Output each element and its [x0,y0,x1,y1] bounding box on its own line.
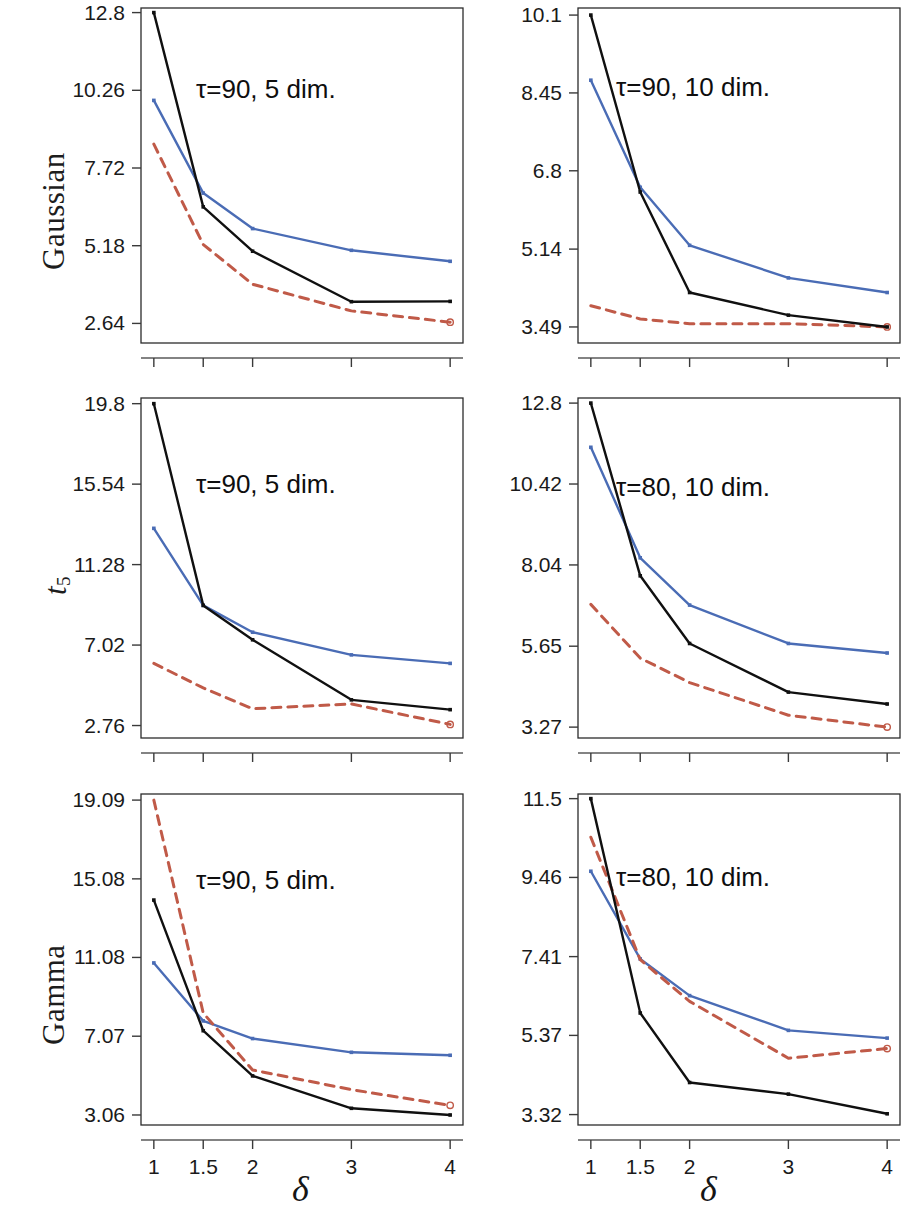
panel-annotation: τ=90, 5 dim. [196,865,336,895]
plot-frame [141,398,463,738]
series-group [152,11,453,326]
series-line-blue-solid [591,871,887,1038]
chart-panel-t5-5dim: 2.767.0211.2815.5419.8τ=90, 5 dim. [49,388,475,796]
plot-frame [578,794,900,1125]
y-tick-label: 10.42 [509,472,562,495]
series-line-blue-solid [154,963,450,1055]
y-tick-label: 7.02 [84,633,125,656]
series-line-red-dashed [154,144,450,322]
series-point-marker [787,642,791,646]
y-tick-label: 5.65 [521,634,562,657]
series-point-marker [638,574,642,578]
series-point-marker [448,662,452,666]
y-tick-label: 9.46 [521,865,562,888]
series-point-marker [688,642,692,646]
series-point-marker [885,325,889,329]
y-tick-label: 6.8 [533,159,562,182]
x-tick-label: 2 [684,1155,696,1178]
series-point-marker [787,1029,791,1033]
x-tick-label: 4 [881,1155,893,1178]
plot-frame [578,8,900,343]
y-tick-label: 19.8 [84,392,125,415]
series-point-marker [350,698,354,702]
series-point-marker [251,630,255,634]
series-point-marker [251,1074,255,1078]
chart-panel-gaussian-5dim: 2.645.187.7210.2612.8τ=90, 5 dim. [49,0,475,401]
y-tick-label: 10.1 [521,3,562,26]
x-tick-label: 3 [783,1155,795,1178]
panel-annotation: τ=90, 5 dim. [196,74,336,104]
series-point-marker [589,401,593,405]
y-tick-label: 10.26 [72,78,125,101]
y-tick-label: 8.45 [521,81,562,104]
y-tick-label: 12.8 [521,391,562,414]
series-point-marker [350,653,354,657]
y-tick-label: 5.37 [521,1023,562,1046]
y-tick-label: 7.07 [84,1024,125,1047]
panel-annotation: τ=80, 10 dim. [616,472,770,502]
xaxis-title-right: δ [700,1168,717,1210]
series-line-black-solid [154,404,450,710]
y-tick-label: 12.8 [84,1,125,24]
series-line-blue-solid [591,80,887,292]
x-tick-label: 1 [148,1155,160,1178]
series-point-marker [201,604,205,608]
xaxis-title-left: δ [292,1168,309,1210]
series-point-marker [350,249,354,253]
series-point-marker [589,446,593,450]
y-tick-label: 11.5 [523,787,562,810]
y-tick-label: 7.72 [84,156,125,179]
x-tick-label: 1.5 [189,1155,218,1178]
series-point-marker [350,300,354,304]
series-point-marker [448,1113,452,1117]
figure-root: Gaussian t5 Gamma 2.645.187.7210.2612.8τ… [0,0,910,1227]
y-tick-label: 11.08 [74,945,125,968]
series-point-marker [448,300,452,304]
series-point-marker [589,78,593,82]
xaxis-title-right-text: δ [700,1169,717,1209]
chart-panel-gamma-10dim: 3.325.377.419.4611.511.5234τ=80, 10 dim. [486,784,910,1183]
xaxis-title-left-text: δ [292,1169,309,1209]
series-point-marker [448,708,452,712]
series-point-marker [787,313,791,317]
series-point-marker [350,1051,354,1055]
series-group [589,797,890,1116]
plot-frame [578,398,900,738]
series-point-marker [152,11,156,15]
chart-panel-t5-10dim: 3.275.658.0410.4212.8τ=80, 10 dim. [486,388,910,796]
series-point-marker [885,651,889,655]
y-tick-label: 7.41 [521,945,562,968]
series-point-marker [251,638,255,642]
series-line-black-solid [591,403,887,704]
series-point-marker [885,702,889,706]
series-point-marker [251,249,255,253]
series-point-marker [152,99,156,103]
series-point-marker [589,869,593,873]
series-line-black-solid [154,13,450,302]
series-group [589,13,890,330]
series-line-red-dashed [591,604,887,727]
series-point-marker [350,1107,354,1111]
series-point-marker [885,1036,889,1040]
series-line-red-dashed [591,306,887,327]
series-point-marker [201,1029,205,1033]
y-tick-label: 2.64 [84,311,125,334]
series-point-marker [201,205,205,209]
series-group [152,800,453,1117]
series-line-black-solid [154,900,450,1115]
x-tick-label: 2 [247,1155,259,1178]
panel-annotation: τ=90, 5 dim. [196,469,336,499]
series-point-marker [251,227,255,231]
series-line-blue-solid [154,528,450,663]
y-tick-label: 3.49 [521,315,562,338]
series-point-marker [688,244,692,248]
series-point-marker [787,690,791,694]
panel-annotation: τ=80, 10 dim. [616,862,770,892]
series-line-red-dashed [154,663,450,724]
series-group [589,401,890,730]
series-point-marker [885,291,889,295]
series-point-marker [638,190,642,194]
series-point-marker [201,191,205,195]
series-point-marker [589,13,593,17]
chart-panel-gaussian-10dim: 3.495.146.88.4510.1τ=90, 10 dim. [486,0,910,401]
